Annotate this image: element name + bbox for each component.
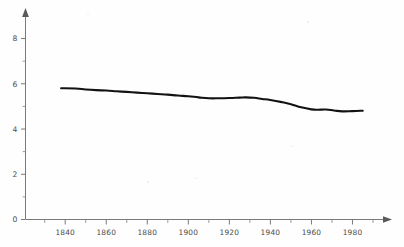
x-tick-label: 1960 bbox=[302, 228, 322, 237]
y-axis-ticks bbox=[21, 39, 26, 220]
x-axis-tick-labels: 18401860188019001920194019601980 bbox=[55, 228, 362, 237]
axis-group bbox=[22, 8, 392, 223]
y-axis-tick-labels: 02468 bbox=[12, 34, 17, 224]
x-tick-label: 1860 bbox=[96, 228, 116, 237]
x-axis-ticks bbox=[45, 220, 373, 225]
x-axis-arrow-icon bbox=[383, 216, 392, 223]
y-axis-arrow-icon bbox=[22, 8, 29, 17]
x-tick-label: 1920 bbox=[220, 228, 240, 237]
x-tick-label: 1840 bbox=[55, 228, 75, 237]
chart-container: 02468 18401860188019001920194019601980 bbox=[0, 0, 404, 247]
line-chart: 02468 18401860188019001920194019601980 bbox=[0, 0, 404, 247]
y-tick-label: 6 bbox=[12, 80, 17, 89]
y-tick-label: 0 bbox=[12, 215, 17, 224]
x-tick-label: 1940 bbox=[261, 228, 281, 237]
x-tick-label: 1980 bbox=[343, 228, 363, 237]
y-tick-label: 4 bbox=[12, 125, 17, 134]
x-tick-label: 1900 bbox=[179, 228, 199, 237]
data-series-group bbox=[61, 88, 363, 111]
data-line-series-1 bbox=[61, 88, 363, 111]
x-tick-label: 1880 bbox=[137, 228, 157, 237]
y-tick-label: 8 bbox=[12, 34, 17, 43]
y-tick-label: 2 bbox=[12, 170, 17, 179]
